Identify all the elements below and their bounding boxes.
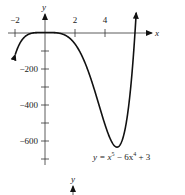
- second-chart-y-label: y: [70, 174, 75, 184]
- svg-text:2: 2: [73, 15, 78, 25]
- y-ticks: −200−400−600: [19, 51, 49, 159]
- equation-label: y = x5 − 6x4 + 3: [92, 151, 151, 162]
- svg-text:4: 4: [103, 15, 108, 25]
- x-axis-label: x: [154, 28, 159, 38]
- chart: −224 −200−400−600 x y y = x5 − 6x4 + 3 y: [0, 0, 185, 195]
- svg-text:−600: −600: [19, 136, 38, 146]
- svg-text:−400: −400: [19, 100, 38, 110]
- svg-text:−200: −200: [19, 64, 38, 74]
- y-axis-label: y: [41, 2, 46, 12]
- svg-text:−2: −2: [10, 15, 20, 25]
